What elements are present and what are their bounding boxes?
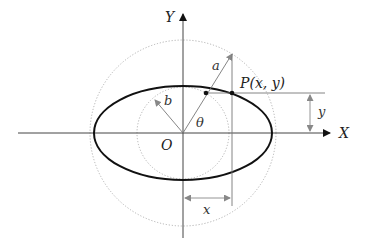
y-dimension-label: y bbox=[317, 104, 326, 119]
x-axis-label: X bbox=[338, 125, 350, 141]
theta-label: θ bbox=[196, 115, 204, 130]
point-p-label: P(x, y) bbox=[239, 75, 285, 91]
b-label: b bbox=[164, 93, 172, 108]
x-dimension-label: x bbox=[203, 202, 211, 217]
y-axis-label: Y bbox=[165, 9, 176, 25]
point-p bbox=[230, 91, 235, 96]
origin-label: O bbox=[161, 137, 173, 153]
inner-circle-point bbox=[204, 91, 209, 96]
ellipse-diagram: Y X O a b θ P(x, y) y x bbox=[0, 0, 366, 247]
a-label: a bbox=[212, 58, 220, 73]
